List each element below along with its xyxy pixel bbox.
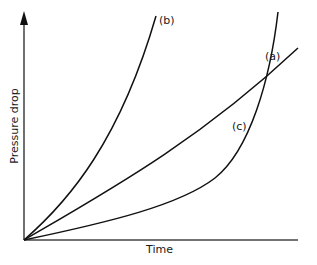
curve-b [24,16,156,240]
y-axis-label: Pressure drop [8,88,21,163]
curve-label-a: (a) [265,50,280,63]
curve-a [24,48,298,240]
curve-label-c: (c) [232,120,247,133]
curve-label-b: (b) [159,14,175,27]
y-axis-arrow-icon [20,11,28,25]
x-axis-label: Time [146,243,173,256]
chart-canvas [0,0,317,265]
